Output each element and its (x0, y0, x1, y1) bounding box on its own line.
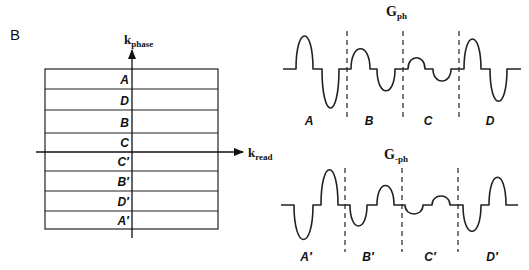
gph-segment-label: D (486, 114, 495, 128)
diagram-canvas: B kphase kread A D B C C′ B′ D′ A′ Gph A… (0, 0, 529, 270)
gph-waveform (283, 31, 521, 118)
gnph-waveform (281, 168, 518, 252)
gnph-segment-label: B′ (362, 250, 375, 264)
row-label: C (120, 136, 129, 150)
gph-trace (283, 36, 521, 108)
row-label: C′ (117, 155, 130, 169)
kphase-axis-label: kphase (124, 32, 153, 49)
row-label: A (119, 73, 129, 87)
row-label: D′ (117, 195, 130, 209)
gnph-segment-label: C′ (424, 250, 437, 264)
gnph-segment-label: D′ (486, 250, 499, 264)
row-label: A′ (116, 214, 130, 228)
gph-title: Gph (386, 4, 407, 21)
gnph-segment-label: A′ (299, 250, 313, 264)
gph-segment-label: B (365, 114, 374, 128)
row-label: B (120, 116, 129, 130)
kread-axis-label: kread (248, 145, 273, 162)
gph-segment-label: A (304, 114, 314, 128)
gnph-trace (281, 170, 518, 240)
gph-segment-label: C (424, 114, 433, 128)
gnph-title: G-ph (384, 147, 408, 164)
row-label: D (120, 94, 129, 108)
panel-label: B (10, 26, 20, 43)
row-label: B′ (117, 175, 130, 189)
